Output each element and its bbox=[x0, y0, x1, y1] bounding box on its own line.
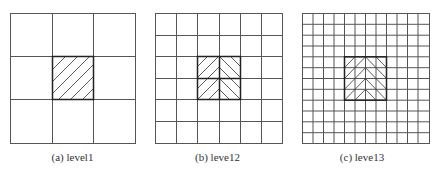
panel-level2: (b) leve12 bbox=[145, 0, 290, 173]
hatched-cells bbox=[197, 56, 241, 100]
hatched-cell bbox=[52, 56, 126, 100]
panel-level1: (a) level1 bbox=[0, 0, 145, 173]
grid-level2 bbox=[145, 0, 290, 150]
caption-a: (a) level1 bbox=[0, 151, 145, 163]
caption-b: (b) leve12 bbox=[145, 151, 290, 163]
grid-level3 bbox=[290, 0, 434, 150]
grid-level1 bbox=[0, 0, 145, 150]
panel-level3: (c) leve13 bbox=[290, 0, 434, 173]
caption-c: (c) leve13 bbox=[290, 151, 434, 163]
